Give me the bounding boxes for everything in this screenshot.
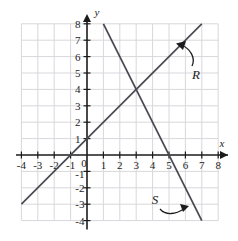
x-axis-label: x <box>219 137 225 149</box>
axis-lines <box>16 16 228 230</box>
line-label-s: S <box>152 192 159 207</box>
x-tick-label: 1 <box>101 159 107 171</box>
x-tick-label: 7 <box>199 159 205 171</box>
grid-lines <box>21 24 218 221</box>
y-tick-label: 1 <box>75 133 81 145</box>
y-tick-label: 7 <box>75 34 81 46</box>
y-tick-label: 5 <box>75 67 81 79</box>
y-tick-label: 6 <box>75 51 81 63</box>
y-tick-label: 4 <box>75 83 81 95</box>
y-axis-label: y <box>94 6 100 18</box>
y-tick-label: 3 <box>75 100 81 112</box>
coordinate-graph-figure: -4 -3 -2 -1 0 1 2 3 4 5 6 7 8 8 7 6 5 4 … <box>0 0 238 241</box>
line-label-r: R <box>191 67 200 82</box>
x-tick-labels: -4 -3 -2 -1 0 1 2 3 4 5 6 7 8 <box>17 157 222 171</box>
x-tick-label: 6 <box>183 159 189 171</box>
x-tick-label: -1 <box>66 159 75 171</box>
y-tick-label: -2 <box>75 182 84 194</box>
x-tick-label: 2 <box>117 159 123 171</box>
x-tick-label: -4 <box>17 159 27 171</box>
x-axis-arrowhead <box>220 151 228 159</box>
line-r <box>21 24 201 204</box>
graph-canvas: -4 -3 -2 -1 0 1 2 3 4 5 6 7 8 8 7 6 5 4 … <box>0 0 238 241</box>
y-tick-label: -4 <box>75 215 85 227</box>
x-tick-label: 8 <box>215 159 221 171</box>
y-tick-label: -1 <box>75 168 84 180</box>
annotation-s: S <box>152 192 189 214</box>
x-tick-label: 4 <box>150 159 156 171</box>
x-tick-label: 3 <box>133 159 139 171</box>
x-tick-label: -3 <box>33 159 43 171</box>
y-tick-label: 2 <box>75 116 81 128</box>
annotation-arrow-s-curve <box>160 209 184 214</box>
y-axis-arrowhead <box>83 14 91 22</box>
y-tick-label: -3 <box>75 198 85 210</box>
y-tick-label: 8 <box>75 18 81 30</box>
